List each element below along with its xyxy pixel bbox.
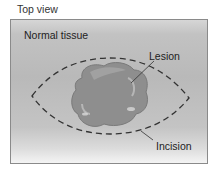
incision-label: Incision (156, 140, 192, 152)
lesion-shape (72, 63, 148, 127)
lesion-label: Lesion (149, 50, 180, 62)
incision-leader-line (141, 131, 153, 140)
normal-tissue-label: Normal tissue (24, 29, 88, 41)
